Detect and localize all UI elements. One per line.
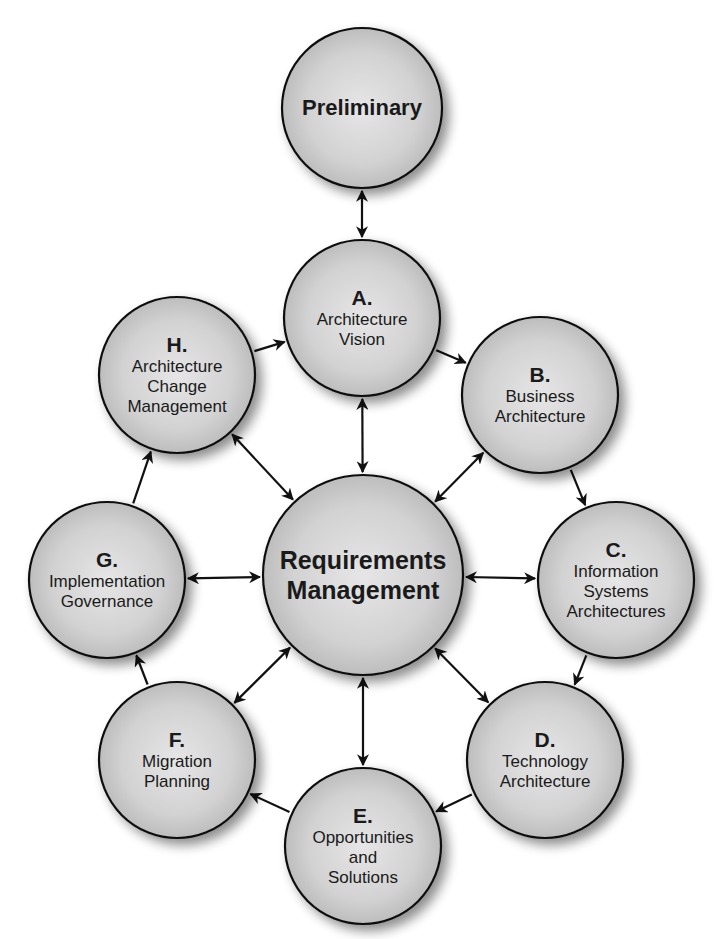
- arrow-requirements-to-c-bidirectional: [466, 577, 535, 578]
- node-text-line: Preliminary: [302, 95, 422, 121]
- node-text-line: Architecture: [500, 772, 591, 792]
- node-label-a[interactable]: A.ArchitectureVision: [290, 240, 434, 396]
- node-text-line: Business: [506, 387, 575, 407]
- arrow-h-to-a: [254, 342, 284, 351]
- node-text-line: Systems: [583, 582, 648, 602]
- node-text-line: Migration: [142, 752, 212, 772]
- node-label-h[interactable]: H.ArchitectureChangeManagement: [105, 297, 249, 453]
- node-text-line: Solutions: [328, 868, 398, 888]
- node-text-line: Management: [287, 575, 440, 605]
- node-text-line: Management: [127, 397, 226, 417]
- node-letter: G.: [96, 548, 118, 572]
- node-text-line: Opportunities: [312, 828, 413, 848]
- node-text-line: Technology: [502, 752, 588, 772]
- node-text-line: Vision: [339, 330, 385, 350]
- node-label-requirements[interactable]: RequirementsManagement: [269, 475, 457, 675]
- node-letter: F.: [169, 728, 185, 752]
- node-text-line: Requirements: [280, 545, 447, 575]
- arrow-a-to-b: [436, 350, 465, 363]
- node-label-e[interactable]: E.OpportunitiesandSolutions: [291, 768, 435, 924]
- node-letter: E.: [353, 804, 373, 828]
- node-label-preliminary[interactable]: Preliminary: [288, 28, 436, 188]
- node-letter: D.: [535, 728, 556, 752]
- node-letter: C.: [606, 538, 627, 562]
- arrow-c-to-d: [575, 655, 587, 684]
- node-label-g[interactable]: G.ImplementationGovernance: [35, 502, 179, 658]
- node-text-line: Architecture: [317, 310, 408, 330]
- node-letter: H.: [167, 333, 188, 357]
- arrow-f-to-g: [136, 656, 147, 685]
- node-text-line: Implementation: [49, 572, 165, 592]
- node-text-line: and: [349, 848, 377, 868]
- node-letter: A.: [352, 286, 373, 310]
- arrow-b-to-c: [571, 470, 585, 505]
- node-label-c[interactable]: C.InformationSystemsArchitectures: [544, 502, 688, 658]
- arrow-g-to-h: [133, 452, 151, 504]
- node-label-d[interactable]: D.TechnologyArchitecture: [473, 682, 617, 838]
- arrow-e-to-f: [251, 794, 290, 812]
- node-text-line: Information: [573, 562, 658, 582]
- arrow-d-to-e: [436, 795, 472, 812]
- node-text-line: Architecture: [495, 407, 586, 427]
- node-letter: B.: [530, 363, 551, 387]
- node-text-line: Architectures: [566, 602, 665, 622]
- arrow-requirements-to-g-bidirectional: [188, 577, 260, 578]
- node-text-line: Governance: [61, 592, 154, 612]
- node-text-line: Planning: [144, 772, 210, 792]
- node-label-f[interactable]: F.MigrationPlanning: [105, 682, 249, 838]
- node-text-line: Architecture: [132, 357, 223, 377]
- node-text-line: Change: [147, 377, 207, 397]
- node-label-b[interactable]: B.BusinessArchitecture: [468, 317, 612, 473]
